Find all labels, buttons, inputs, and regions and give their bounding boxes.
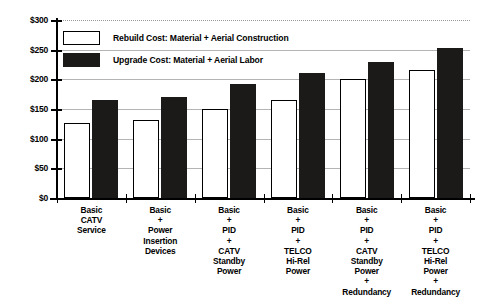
bar-chart: $0$50$100$150$200$250$300 Rebuild Cost: … [0, 0, 499, 300]
legend-item-upgrade: Upgrade Cost: Material + Aerial Labor [63, 50, 363, 70]
category-label-line: Basic [57, 205, 126, 215]
category-label-line: Basic [126, 205, 195, 215]
category-label-line: Standby [195, 256, 264, 266]
x-axis-category-label: Basic+PowerInsertionDevices [126, 205, 195, 256]
x-axis-category-label: Basic+PID+TELCOHi-RelPower+Redundancy [401, 205, 470, 297]
x-axis-category-label: BasicCATVService [57, 205, 126, 236]
x-axis-tick [126, 194, 127, 203]
category-label-line: CATV [57, 215, 126, 225]
bar-upgrade [230, 84, 256, 198]
bar-rebuild [340, 79, 366, 198]
category-label-line: Basic [195, 205, 264, 215]
x-axis-tick [470, 194, 471, 203]
bar-upgrade [92, 100, 118, 198]
category-label-line: CATV [332, 246, 401, 256]
bar-upgrade [368, 62, 394, 198]
legend-item-rebuild: Rebuild Cost: Material + Aerial Construc… [63, 28, 363, 48]
category-label-line: Basic [401, 205, 470, 215]
y-axis-tick-label: $250 [0, 46, 48, 55]
category-label-line: Devices [126, 246, 195, 256]
legend-swatch-rebuild-icon [63, 31, 100, 45]
x-axis-category-label: Basic+PID+TELCOHi-RelPower [264, 205, 333, 276]
category-label-line: Power [264, 266, 333, 276]
gridline [57, 20, 470, 21]
chart-legend: Rebuild Cost: Material + Aerial Construc… [63, 28, 363, 72]
bar-rebuild [409, 70, 435, 198]
bar-rebuild [133, 120, 159, 198]
bar-rebuild [64, 123, 90, 198]
category-label-line: Hi-Rel [401, 256, 470, 266]
category-label-line: Power [401, 266, 470, 276]
y-axis-tick-label: $100 [0, 135, 48, 144]
x-axis-line [50, 198, 475, 200]
category-label-line: Power [332, 266, 401, 276]
y-axis-tick-label: $300 [0, 16, 48, 25]
x-axis-tick [332, 194, 333, 203]
category-label-line: TELCO [401, 246, 470, 256]
category-label-line: Standby [332, 256, 401, 266]
category-label-line: + [332, 276, 401, 286]
category-label-line: TELCO [264, 246, 333, 256]
y-axis-tick [51, 168, 62, 170]
y-axis-tick-label: $200 [0, 75, 48, 84]
category-label-line: + [195, 236, 264, 246]
x-axis-tick [264, 194, 265, 203]
category-label-line: Basic [332, 205, 401, 215]
x-axis-tick [57, 194, 58, 203]
category-label-line: + [195, 215, 264, 225]
y-axis-tick-label: $150 [0, 105, 48, 114]
y-axis-tick-label: $50 [0, 164, 48, 173]
category-label-line: + [332, 215, 401, 225]
category-label-line: + [401, 215, 470, 225]
legend-swatch-upgrade-icon [63, 53, 100, 67]
category-label-line: CATV [195, 246, 264, 256]
category-label-line: Hi-Rel [264, 256, 333, 266]
x-axis-category-label: Basic+PID+CATVStandbyPower+Redundancy [332, 205, 401, 297]
category-label-line: Power [126, 225, 195, 235]
category-label-line: + [401, 276, 470, 286]
bar-rebuild [271, 100, 297, 198]
bar-upgrade [161, 97, 187, 198]
category-label-line: Redundancy [401, 287, 470, 297]
y-axis-tick [51, 79, 62, 81]
legend-label-upgrade: Upgrade Cost: Material + Aerial Labor [113, 55, 263, 65]
bar-rebuild [202, 109, 228, 198]
x-axis-category-label: Basic+PID+CATVStandbyPower [195, 205, 264, 276]
category-label-line: Basic [264, 205, 333, 215]
category-label-line: Power [195, 266, 264, 276]
category-label-line: PID [195, 225, 264, 235]
x-axis-category-labels: BasicCATVServiceBasic+PowerInsertionDevi… [57, 205, 470, 300]
bar-upgrade [437, 48, 463, 198]
category-label-line: PID [332, 225, 401, 235]
category-label-line: + [264, 215, 333, 225]
category-label-line: PID [264, 225, 333, 235]
y-axis-tick [51, 139, 62, 141]
category-label-line: Insertion [126, 236, 195, 246]
category-label-line: Redundancy [332, 287, 401, 297]
y-axis-tick [51, 20, 62, 22]
y-axis-tick [51, 109, 62, 111]
category-label-line: PID [401, 225, 470, 235]
x-axis-tick [401, 194, 402, 203]
category-label-line: + [264, 236, 333, 246]
x-axis-tick [195, 194, 196, 203]
category-label-line: + [332, 236, 401, 246]
category-label-line: Service [57, 225, 126, 235]
bar-upgrade [299, 73, 325, 198]
category-label-line: + [126, 215, 195, 225]
y-axis-tick [51, 50, 62, 52]
legend-label-rebuild: Rebuild Cost: Material + Aerial Construc… [113, 33, 289, 43]
y-axis-tick-label: $0 [0, 194, 48, 203]
category-label-line: + [401, 236, 470, 246]
